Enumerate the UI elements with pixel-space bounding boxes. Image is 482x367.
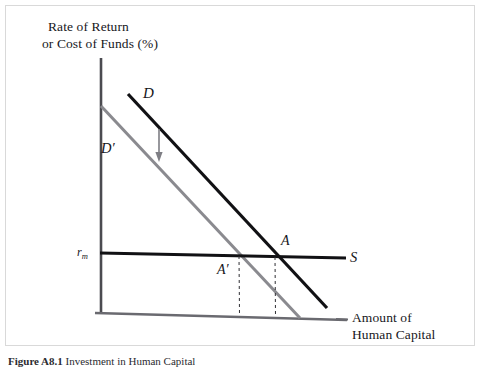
point-label-a-prime: A′ — [217, 262, 229, 278]
curve-label-supply: S — [350, 249, 357, 266]
y-axis-title-line-1: Rate of Return — [48, 19, 129, 34]
demand-shift-arrow — [155, 129, 162, 162]
curve-label-demand-shifted: D′ — [101, 140, 115, 157]
x-axis-title-line-2: Human Capital — [352, 326, 435, 343]
y-axis-title: Rate of Return or Cost of Funds (%) — [48, 18, 158, 52]
y-axis-title-line-2: or Cost of Funds (%) — [42, 35, 158, 52]
x-axis-title-connector — [336, 319, 348, 320]
demand-shifted-curve — [101, 106, 300, 318]
y-axis-tick-label-rm: rm — [77, 245, 88, 261]
x-axis-title-line-1: Amount of — [352, 310, 412, 325]
figure-caption-number: Figure A8.1 — [8, 355, 63, 367]
curve-label-demand-original: D — [143, 85, 154, 102]
x-axis-title: Amount of Human Capital — [352, 309, 435, 343]
supply-curve — [100, 253, 346, 258]
point-label-a: A — [281, 233, 290, 249]
figure-container: Rate of Return or Cost of Funds (%) Amou… — [0, 0, 482, 367]
dropline-a — [275, 257, 276, 316]
x-axis-line — [95, 313, 347, 320]
figure-caption-text: Investment in Human Capital — [66, 355, 196, 367]
figure-caption: Figure A8.1 Investment in Human Capital — [8, 355, 195, 367]
y-axis-tick-label-rm-subscript: m — [82, 251, 88, 261]
dropline-a-prime — [239, 256, 240, 315]
